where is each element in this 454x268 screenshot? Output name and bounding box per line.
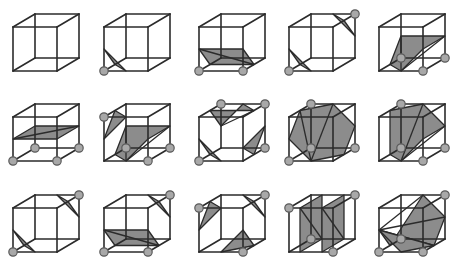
marked-vertex-icon — [285, 67, 293, 75]
cube-edge — [379, 195, 401, 208]
marked-vertex-icon — [441, 191, 449, 199]
marked-vertex-icon — [261, 144, 269, 152]
cube-case-0 — [13, 14, 79, 71]
cube-edge — [148, 58, 170, 71]
marked-vertex-icon — [261, 100, 269, 108]
marching-cubes-figure — [0, 0, 454, 268]
marked-vertex-icon — [419, 248, 427, 256]
cube-edge — [57, 104, 79, 117]
cube-edge — [148, 104, 170, 117]
marked-vertex-icon — [397, 54, 405, 62]
cube-edge — [57, 58, 79, 71]
isosurface-patch — [115, 126, 170, 161]
cube-edge — [423, 14, 445, 27]
marked-vertex-icon — [397, 144, 405, 152]
cube-case-13 — [285, 191, 359, 256]
marked-vertex-icon — [285, 204, 293, 212]
marked-vertex-icon — [441, 144, 449, 152]
marked-vertex-icon — [351, 144, 359, 152]
marked-vertex-icon — [329, 248, 337, 256]
marked-vertex-icon — [75, 191, 83, 199]
marked-vertex-icon — [419, 157, 427, 165]
marked-vertex-icon — [217, 100, 225, 108]
marked-vertex-icon — [166, 191, 174, 199]
marked-vertex-icon — [441, 54, 449, 62]
marked-vertex-icon — [307, 100, 315, 108]
cube-edge — [148, 14, 170, 27]
marked-vertex-icon — [195, 204, 203, 212]
marked-vertex-icon — [100, 248, 108, 256]
isosurface-patch — [390, 36, 445, 71]
marked-vertex-icon — [307, 144, 315, 152]
cube-edge — [199, 239, 221, 252]
marked-vertex-icon — [122, 144, 130, 152]
cube-case-4 — [379, 14, 449, 75]
marked-vertex-icon — [351, 191, 359, 199]
cube-edge — [243, 14, 265, 27]
cube-edge — [13, 195, 35, 208]
marked-vertex-icon — [397, 100, 405, 108]
marked-vertex-icon — [195, 67, 203, 75]
marked-vertex-icon — [100, 67, 108, 75]
marked-vertex-icon — [307, 235, 315, 243]
cube-case-9 — [379, 100, 449, 165]
marked-vertex-icon — [419, 67, 427, 75]
marked-vertex-icon — [239, 67, 247, 75]
cube-case-12 — [195, 191, 269, 256]
marked-vertex-icon — [166, 144, 174, 152]
cube-case-1 — [100, 14, 170, 75]
marked-vertex-icon — [144, 157, 152, 165]
marked-vertex-icon — [397, 235, 405, 243]
cube-case-3 — [285, 10, 359, 75]
marked-vertex-icon — [351, 10, 359, 18]
cube-edge — [379, 14, 401, 27]
marked-vertex-icon — [195, 157, 203, 165]
marked-vertex-icon — [75, 144, 83, 152]
marked-vertex-icon — [100, 113, 108, 121]
cube-case-7 — [195, 100, 269, 165]
cube-case-5 — [9, 104, 83, 165]
cube-cases-canvas — [0, 0, 454, 268]
cube-edge — [13, 58, 35, 71]
marked-vertex-icon — [261, 191, 269, 199]
marked-vertex-icon — [285, 157, 293, 165]
cube-edge — [13, 14, 35, 27]
marked-vertex-icon — [9, 248, 17, 256]
cube-edge — [333, 58, 355, 71]
cube-case-2 — [195, 14, 265, 75]
marked-vertex-icon — [375, 248, 383, 256]
marked-vertex-icon — [53, 157, 61, 165]
cube-case-6 — [100, 104, 174, 165]
marked-vertex-icon — [239, 248, 247, 256]
cube-edge — [199, 14, 221, 27]
cube-case-14 — [375, 191, 449, 256]
cube-case-11 — [100, 191, 174, 256]
cube-edge — [57, 239, 79, 252]
marked-vertex-icon — [31, 144, 39, 152]
cube-case-10 — [9, 191, 83, 256]
marked-vertex-icon — [9, 157, 17, 165]
cube-edge — [57, 14, 79, 27]
cube-edge — [13, 104, 35, 117]
cube-case-8 — [285, 100, 359, 165]
marked-vertex-icon — [144, 248, 152, 256]
cube-edge — [289, 14, 311, 27]
cube-edge — [104, 14, 126, 27]
cube-edge — [104, 195, 126, 208]
